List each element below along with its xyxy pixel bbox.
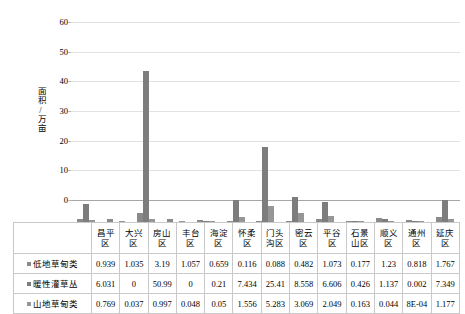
column-header-line: 区 (290, 238, 317, 248)
table-cell-value: 0.05 (205, 294, 233, 314)
table-cell-value: 0.048 (176, 294, 204, 314)
y-axis-tick-label: 10 (60, 165, 69, 175)
column-header-line: 山区 (347, 238, 374, 248)
bar-group (221, 22, 251, 222)
table-column-header: 昌平区 (92, 223, 120, 254)
table-column-header: 密云区 (290, 223, 318, 254)
table-cell-value: 8.558 (290, 274, 318, 294)
table-cell-value: 0.163 (346, 294, 374, 314)
column-header-line: 区 (149, 238, 176, 248)
y-axis-tick-label: 40 (60, 76, 69, 86)
bar-group (400, 22, 430, 222)
legend-swatch-icon (27, 302, 31, 306)
column-header-line: 区 (403, 238, 430, 248)
bar-group (251, 22, 281, 222)
table-column-header: 门头沟区 (261, 223, 289, 254)
column-header-line: 区 (318, 238, 345, 248)
column-header-line: 房山 (149, 228, 176, 238)
y-axis-tick-label: 20 (60, 136, 69, 146)
bar-groups (71, 0, 460, 222)
table-column-header: 房山区 (148, 223, 176, 254)
series-name-text: 低地草甸类 (33, 259, 77, 269)
table-cell-value: 6.031 (92, 274, 120, 294)
table-column-header: 延庆区 (431, 223, 459, 254)
data-table-wrapper: 昌平区大兴区房山区丰台区海淀区怀柔区门头沟区密云区平谷区石景山区顺义区通州区延庆… (13, 222, 460, 314)
table-column-header: 丰台区 (176, 223, 204, 254)
table-cell-value: 0.21 (205, 274, 233, 294)
y-axis-tick-mark (68, 141, 71, 142)
bar-group (191, 22, 221, 222)
legend-swatch-icon (27, 282, 31, 286)
column-header-line: 平谷 (318, 228, 345, 238)
column-header-line: 门头 (262, 228, 289, 238)
table-header-row: 昌平区大兴区房山区丰台区海淀区怀柔区门头沟区密云区平谷区石景山区顺义区通州区延庆… (14, 223, 460, 254)
series-legend-label[interactable]: 暖性灌草丛 (14, 274, 92, 294)
table-cell-value: 0.997 (148, 294, 176, 314)
bar-group (131, 22, 161, 222)
table-cell-value: 1.073 (318, 254, 346, 274)
y-axis-tick-label: 60 (60, 17, 69, 27)
table-column-header: 大兴区 (120, 223, 148, 254)
column-header-line: 昌平 (92, 228, 119, 238)
column-header-line: 沟区 (262, 238, 289, 248)
bar-group (370, 22, 400, 222)
table-cell-value: 3.19 (148, 254, 176, 274)
table-cell-value: 0 (176, 274, 204, 294)
table-cell-value: 0.088 (261, 254, 289, 274)
table-row: 暖性灌草丛6.031050.9900.217.43425.418.5586.60… (14, 274, 460, 294)
table-cell-value: 2.049 (318, 294, 346, 314)
table-cell-value: 1.035 (120, 254, 148, 274)
column-header-line: 区 (92, 238, 119, 248)
table-cell-value: 3.069 (290, 294, 318, 314)
y-axis-tick-mark (68, 111, 71, 112)
column-header-line: 海淀 (205, 228, 232, 238)
y-axis-tick-mark (68, 22, 71, 23)
data-table: 昌平区大兴区房山区丰台区海淀区怀柔区门头沟区密云区平谷区石景山区顺义区通州区延庆… (13, 222, 460, 314)
table-cell-value: 0.426 (346, 274, 374, 294)
column-header-line: 延庆 (432, 228, 459, 238)
series-legend-label[interactable]: 低地草甸类 (14, 254, 92, 274)
bar-group (430, 22, 460, 222)
bar (143, 71, 149, 222)
column-header-line: 区 (233, 238, 260, 248)
table-cell-value: 0.939 (92, 254, 120, 274)
y-axis-tick-mark (68, 200, 71, 201)
grassland-area-bar-chart-figure: 面积/万亩 0102030405060 昌平区大兴区房山区丰台区海淀区怀柔区门头… (0, 0, 465, 314)
y-axis-tick-label: 30 (60, 106, 69, 116)
table-cell-value: 1.057 (176, 254, 204, 274)
table-cell-value: 8E-04 (403, 294, 431, 314)
table-cell-value: 0.177 (346, 254, 374, 274)
table-cell-value: 1.137 (374, 274, 402, 294)
table-cell-value: 7.434 (233, 274, 261, 294)
legend-swatch-icon (27, 262, 31, 266)
table-cell-value: 1.23 (374, 254, 402, 274)
y-axis-tick-mark (68, 52, 71, 53)
table-cell-value: 1.767 (431, 254, 459, 274)
series-legend-label[interactable]: 山地草甸类 (14, 294, 92, 314)
table-cell-value: 0.769 (92, 294, 120, 314)
table-column-header: 海淀区 (205, 223, 233, 254)
column-header-line: 区 (375, 238, 402, 248)
y-axis-tick-label: 50 (60, 47, 69, 57)
table-cell-value: 0.818 (403, 254, 431, 274)
bar (268, 206, 274, 222)
column-header-line: 顺义 (375, 228, 402, 238)
table-cell-value: 0.037 (120, 294, 148, 314)
column-header-line: 丰台 (177, 228, 204, 238)
table-column-header: 顺义区 (374, 223, 402, 254)
series-name-text: 山地草甸类 (33, 299, 77, 309)
table-row: 低地草甸类0.9391.0353.191.0570.6590.1160.0880… (14, 254, 460, 274)
table-cell-value: 0.044 (374, 294, 402, 314)
table-cell-value: 0.116 (233, 254, 261, 274)
column-header-line: 区 (205, 238, 232, 248)
table-cell-value: 50.99 (148, 274, 176, 294)
table-row: 山地草甸类0.7690.0370.9970.0480.051.5565.2833… (14, 294, 460, 314)
column-header-line: 区 (432, 238, 459, 248)
table-column-header: 石景山区 (346, 223, 374, 254)
column-header-line: 密云 (290, 228, 317, 238)
table-cell-value: 1.556 (233, 294, 261, 314)
y-axis-tick-mark (68, 81, 71, 82)
table-cell-value: 0.482 (290, 254, 318, 274)
table-cell-value: 0.002 (403, 274, 431, 294)
bar-group (71, 22, 101, 222)
